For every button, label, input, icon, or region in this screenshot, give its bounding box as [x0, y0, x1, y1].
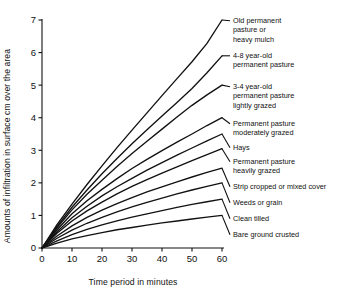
series-label-2-line-1: permanent pasture	[233, 91, 294, 100]
series-label-5-line-0: Permanent pasture	[233, 157, 295, 166]
y-tick-label-4: 4	[31, 112, 36, 123]
series-curve-5	[42, 149, 222, 248]
series-curve-4	[42, 134, 222, 248]
x-axis-title: Time period in minutes	[42, 271, 224, 289]
series-label-6-line-0: Strip cropped or mixed cover	[233, 182, 327, 191]
series-label-7-line-0: Weeds or grain	[233, 198, 282, 207]
x-tick-label-0: 0	[39, 253, 44, 264]
series-annotations-group: Old permanentpasture orheavy mulch4-8 ye…	[222, 16, 327, 239]
leader-line-8	[222, 199, 230, 219]
leader-line-9	[222, 215, 230, 234]
leader-line-3	[222, 118, 230, 124]
series-label-9-line-0: Bare ground crusted	[233, 230, 299, 239]
curves-group	[42, 20, 222, 248]
series-label-3-line-0: Permanent pasture	[233, 119, 295, 128]
x-axis-title-text: Time period in minutes	[89, 277, 178, 287]
leader-line-6	[222, 168, 230, 187]
x-tick-label-20: 20	[97, 253, 108, 264]
x-tick-label-10: 10	[67, 253, 78, 264]
chart-canvas: 012345670102030405060 Old permanentpastu…	[0, 0, 357, 292]
series-label-1-line-0: 4-8 year-old	[233, 51, 272, 60]
series-label-8-line-0: Clean tilled	[233, 214, 269, 223]
leader-line-5	[222, 149, 230, 162]
x-tick-label-60: 60	[217, 253, 228, 264]
leader-line-7	[222, 183, 230, 203]
y-tick-label-0: 0	[31, 242, 36, 253]
series-label-2-line-2: lightly grazed	[233, 101, 276, 110]
leader-line-4	[222, 134, 230, 148]
series-label-0-line-1: pasture or	[233, 25, 266, 34]
series-label-5-line-1: heavily grazed	[233, 166, 280, 175]
x-tick-label-50: 50	[187, 253, 198, 264]
series-label-1-line-1: permanent pasture	[233, 60, 294, 69]
infiltration-line-chart: 012345670102030405060 Old permanentpastu…	[0, 0, 357, 292]
series-label-2-line-0: 3-4 year-old	[233, 82, 272, 91]
leader-line-2	[222, 85, 230, 87]
leader-line-0	[222, 20, 230, 21]
series-curve-7	[42, 183, 222, 248]
series-label-4-line-0: Hays	[233, 143, 250, 152]
series-label-0-line-0: Old permanent	[233, 16, 281, 25]
y-tick-label-5: 5	[31, 80, 36, 91]
y-tick-label-7: 7	[31, 14, 36, 25]
x-tick-label-40: 40	[157, 253, 168, 264]
x-tick-label-30: 30	[127, 253, 138, 264]
y-tick-label-3: 3	[31, 145, 36, 156]
y-tick-label-2: 2	[31, 177, 36, 188]
y-tick-label-6: 6	[31, 47, 36, 58]
series-label-0-line-2: heavy mulch	[233, 35, 274, 44]
series-label-3-line-1: moderately grazed	[233, 128, 293, 137]
y-tick-label-1: 1	[31, 210, 36, 221]
